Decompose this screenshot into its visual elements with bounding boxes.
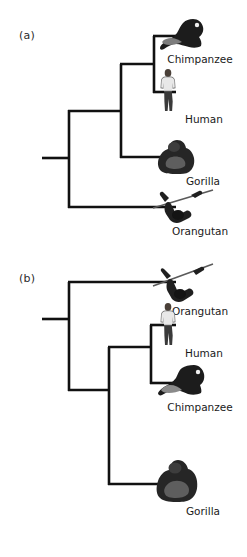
taxon-chimpanzee-a: Chimpanzee (152, 16, 247, 65)
panel-b: (b) (0, 262, 247, 557)
human-silhouette-icon (156, 68, 247, 112)
taxon-orangutan-a: Orangutan (152, 186, 247, 237)
panel-a: (a) (0, 0, 247, 262)
gorilla-silhouette-icon (155, 138, 247, 174)
taxon-label: Human (156, 347, 247, 359)
taxon-label: Orangutan (152, 225, 247, 237)
taxon-label: Chimpanzee (152, 53, 247, 65)
orangutan-silhouette-icon (152, 262, 247, 304)
taxon-gorilla-b: Gorilla (155, 458, 247, 517)
taxon-human-a: Human (156, 68, 247, 125)
taxon-chimpanzee-b: Chimpanzee (152, 362, 247, 413)
gorilla-silhouette-icon (155, 458, 247, 504)
taxon-label: Human (156, 113, 247, 125)
chimpanzee-silhouette-icon (152, 16, 247, 52)
orangutan-silhouette-icon (152, 186, 247, 224)
chimpanzee-silhouette-icon (152, 362, 247, 400)
taxon-label: Chimpanzee (152, 401, 247, 413)
human-silhouette-icon (156, 302, 247, 346)
taxon-label: Gorilla (155, 505, 247, 517)
taxon-human-b: Human (156, 302, 247, 359)
taxon-gorilla-a: Gorilla (155, 138, 247, 187)
